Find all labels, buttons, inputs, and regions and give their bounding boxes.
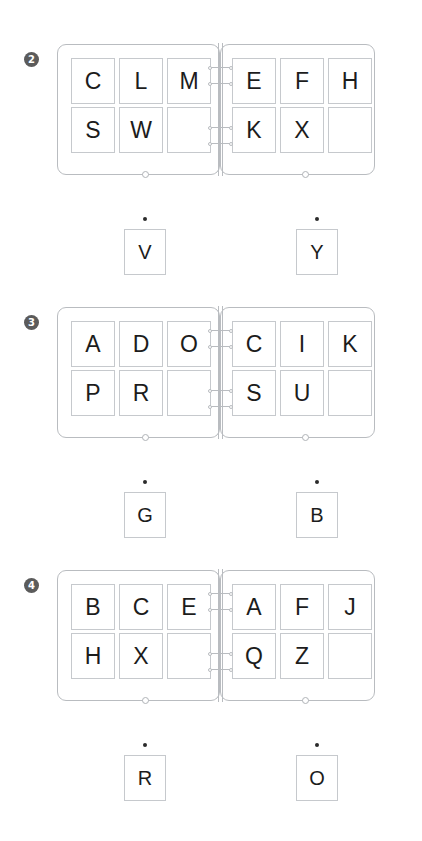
letter-tile[interactable]: Q [232, 633, 276, 679]
answer-dot-icon [143, 217, 147, 221]
letter-tile[interactable]: F [280, 58, 324, 104]
letter-grid-right: E F H K X [232, 58, 372, 153]
letter-tile[interactable]: W [119, 107, 163, 153]
letter-tile[interactable]: E [232, 58, 276, 104]
answer-dot-icon [143, 480, 147, 484]
letter-tile[interactable]: K [328, 321, 372, 367]
letter-tile[interactable]: U [280, 370, 324, 416]
answer-dot-icon [315, 743, 319, 747]
letter-tile[interactable]: R [119, 370, 163, 416]
answer-box[interactable]: V [124, 229, 166, 275]
binder-hinge-dot [302, 434, 309, 441]
ring-binder: B C E H X A F J Q Z [57, 570, 375, 701]
answer-box[interactable]: O [296, 755, 338, 801]
answer-box[interactable]: G [124, 492, 166, 538]
letter-tile-empty[interactable] [167, 633, 211, 679]
letter-tile[interactable]: C [119, 584, 163, 630]
binder-hinge-dot [142, 697, 149, 704]
letter-grid-left: B C E H X [71, 584, 211, 679]
binder-hinge-dot [302, 697, 309, 704]
letter-tile[interactable]: H [71, 633, 115, 679]
binder-ring-icon [208, 328, 233, 333]
letter-tile[interactable]: S [232, 370, 276, 416]
letter-tile[interactable]: F [280, 584, 324, 630]
letter-tile[interactable]: E [167, 584, 211, 630]
letter-tile[interactable]: Z [280, 633, 324, 679]
letter-tile[interactable]: I [280, 321, 324, 367]
answer-row: V Y [0, 229, 422, 289]
answer-slot: Y [296, 229, 338, 275]
letter-grid-left: C L M S W [71, 58, 211, 153]
worksheet-canvas: 2 C L M S W E F H K X [0, 0, 422, 841]
letter-tile[interactable]: L [119, 58, 163, 104]
letter-grid-right: C I K S U [232, 321, 372, 416]
binder-ring-icon [208, 125, 233, 130]
letter-tile[interactable]: B [71, 584, 115, 630]
letter-tile[interactable]: P [71, 370, 115, 416]
letter-tile[interactable]: S [71, 107, 115, 153]
answer-dot-icon [315, 480, 319, 484]
binder-spine-icon [218, 569, 223, 702]
letter-tile-empty[interactable] [328, 107, 372, 153]
letter-tile[interactable]: C [71, 58, 115, 104]
answer-slot: B [296, 492, 338, 538]
letter-tile[interactable]: D [119, 321, 163, 367]
letter-tile-empty[interactable] [167, 107, 211, 153]
binder-spine-icon [218, 306, 223, 439]
binder-page-right: E F H K X [220, 44, 375, 175]
letter-grid-right: A F J Q Z [232, 584, 372, 679]
answer-row: R O [0, 755, 422, 815]
letter-tile[interactable]: K [232, 107, 276, 153]
answer-box[interactable]: B [296, 492, 338, 538]
letter-tile[interactable]: C [232, 321, 276, 367]
letter-tile[interactable]: X [280, 107, 324, 153]
answer-box[interactable]: R [124, 755, 166, 801]
binder-page-left: A D O P R [57, 307, 220, 438]
letter-tile-empty[interactable] [328, 633, 372, 679]
answer-box[interactable]: Y [296, 229, 338, 275]
answer-dot-icon [315, 217, 319, 221]
answer-dot-icon [143, 743, 147, 747]
ring-binder: C L M S W E F H K X [57, 44, 375, 175]
binder-page-right: A F J Q Z [220, 570, 375, 701]
answer-row: G B [0, 492, 422, 552]
binder-ring-icon [208, 607, 233, 612]
binder-ring-icon [208, 141, 233, 146]
binder-ring-icon [208, 591, 233, 596]
answer-slot: O [296, 755, 338, 801]
binder-hinge-dot [302, 171, 309, 178]
ring-binder: A D O P R C I K S U [57, 307, 375, 438]
letter-tile-empty[interactable] [167, 370, 211, 416]
letter-tile[interactable]: A [71, 321, 115, 367]
binder-ring-icon [208, 404, 233, 409]
letter-tile[interactable]: M [167, 58, 211, 104]
letter-tile[interactable]: O [167, 321, 211, 367]
puzzle-number-badge: 2 [24, 52, 39, 67]
binder-spine-icon [218, 43, 223, 176]
binder-page-left: C L M S W [57, 44, 220, 175]
answer-slot: V [124, 229, 166, 275]
letter-tile[interactable]: A [232, 584, 276, 630]
letter-tile[interactable]: H [328, 58, 372, 104]
answer-slot: R [124, 755, 166, 801]
binder-ring-icon [208, 667, 233, 672]
binder-ring-icon [208, 651, 233, 656]
binder-ring-icon [208, 388, 233, 393]
binder-ring-icon [208, 65, 233, 70]
binder-page-right: C I K S U [220, 307, 375, 438]
letter-grid-left: A D O P R [71, 321, 211, 416]
puzzle-number-badge: 4 [24, 578, 39, 593]
puzzle-number-badge: 3 [24, 315, 39, 330]
letter-tile[interactable]: J [328, 584, 372, 630]
binder-hinge-dot [142, 434, 149, 441]
binder-ring-icon [208, 81, 233, 86]
answer-slot: G [124, 492, 166, 538]
binder-hinge-dot [142, 171, 149, 178]
binder-page-left: B C E H X [57, 570, 220, 701]
letter-tile-empty[interactable] [328, 370, 372, 416]
letter-tile[interactable]: X [119, 633, 163, 679]
binder-ring-icon [208, 344, 233, 349]
